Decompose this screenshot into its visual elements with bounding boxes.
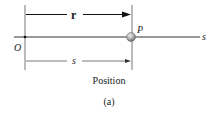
axis-s-label: s bbox=[202, 31, 206, 42]
position-diagram: r s P O s Position (a) bbox=[0, 0, 218, 118]
origin-label: O bbox=[14, 42, 21, 53]
s-distance-label: s bbox=[72, 55, 76, 66]
caption-sub-a: (a) bbox=[103, 96, 114, 108]
particle-p-icon bbox=[127, 33, 136, 42]
r-arrowhead-icon bbox=[122, 12, 131, 18]
r-vector-label: r bbox=[71, 8, 77, 22]
s-arrowhead-icon bbox=[125, 59, 131, 63]
origin-dot bbox=[24, 36, 27, 39]
point-p-label: P bbox=[136, 24, 143, 35]
caption-position: Position bbox=[93, 75, 126, 86]
